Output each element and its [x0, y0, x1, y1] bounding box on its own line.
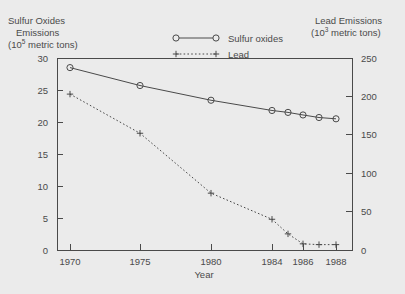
legend-label: Sulfur oxides — [228, 33, 283, 44]
left-axis-tick-label: 15 — [37, 149, 48, 160]
legend-marker — [173, 35, 179, 41]
x-axis-tick-label: 1975 — [129, 256, 150, 267]
left-axis-tick-label: 5 — [43, 213, 48, 224]
right-axis-tick-label: 50 — [361, 206, 372, 217]
x-axis-tick-label: 1988 — [325, 256, 346, 267]
left-axis-tick-label: 10 — [37, 181, 48, 192]
left-axis-title-line3: (105 metric tons) — [8, 38, 78, 50]
right-axis-title-line1: Lead Emissions — [315, 15, 382, 26]
left-axis-tick-label: 30 — [37, 53, 48, 64]
right-axis-tick-label: 200 — [361, 91, 377, 102]
right-axis-title-line2: (103 metric tons) — [311, 26, 381, 38]
x-axis-tick-label: 1984 — [261, 256, 282, 267]
right-axis-tick-label: 250 — [361, 53, 377, 64]
left-axis-tick-label: 0 — [43, 245, 48, 256]
right-axis-title: Lead Emissions (103 metric tons) — [311, 15, 382, 38]
left-axis-title-line1: Sulfur Oxides — [8, 15, 65, 26]
x-axis-tick-label: 1986 — [292, 256, 313, 267]
chart-figure: 051015202530 050100150200250 19701975198… — [0, 0, 405, 294]
emissions-dual-axis-line-chart: 051015202530 050100150200250 19701975198… — [0, 0, 405, 294]
right-axis-tick-label: 0 — [361, 245, 366, 256]
x-axis-tick-label: 1970 — [59, 256, 80, 267]
legend-marker — [213, 35, 219, 41]
x-axis-tick-label: 1980 — [200, 256, 221, 267]
right-axis-tick-label: 150 — [361, 129, 377, 140]
legend-label: Lead — [228, 49, 249, 60]
left-axis-tick-label: 25 — [37, 85, 48, 96]
left-axis-title-line2: Emissions — [16, 27, 60, 38]
left-axis-tick-label: 20 — [37, 117, 48, 128]
x-axis-title: Year — [194, 269, 213, 280]
right-axis-tick-label: 100 — [361, 168, 377, 179]
